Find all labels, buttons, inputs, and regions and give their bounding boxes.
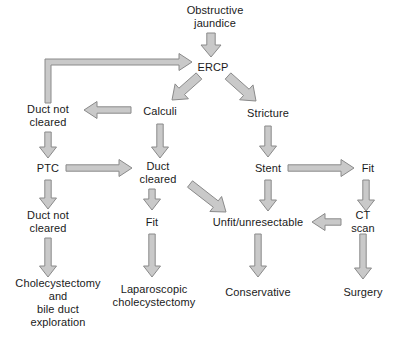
arrow-jaundice-to-ercp bbox=[201, 33, 221, 57]
flowchart-canvas: Obstructive jaundice ERCP Calculi Strict… bbox=[0, 0, 395, 341]
arrow-calculi-to-duct-not-cleared bbox=[84, 102, 131, 119]
arrow-ct-scan-to-surgery bbox=[355, 234, 372, 279]
node-fit-middle: Fit bbox=[146, 216, 159, 229]
arrow-ercp-to-calculi bbox=[172, 73, 202, 100]
arrow-duct-not-cleared-to-ptc bbox=[40, 132, 57, 158]
node-cholecystectomy: Cholecystectomy and bile duct exploratio… bbox=[15, 277, 100, 329]
node-conservative: Conservative bbox=[225, 286, 290, 299]
node-ct-scan: CT scan bbox=[347, 209, 379, 235]
arrow-ptc-to-duct-not-cleared-2 bbox=[40, 180, 57, 209]
arrow-duct-not-cleared-2-to-cholecystectomy bbox=[40, 238, 57, 277]
arrow-ptc-to-duct-cleared bbox=[66, 160, 132, 177]
node-duct-not-cleared-1: Duct not cleared bbox=[27, 103, 69, 129]
arrow-stricture-to-stent bbox=[260, 126, 277, 157]
node-laparoscopic-cholecystectomy: Laparoscopic cholecystectomy bbox=[113, 283, 196, 309]
node-ercp: ERCP bbox=[198, 61, 229, 74]
arrow-stent-to-fit-right bbox=[288, 160, 354, 177]
node-calculi: Calculi bbox=[143, 105, 177, 118]
node-stent: Stent bbox=[255, 162, 281, 175]
arrow-duct-cleared-to-unfit bbox=[188, 181, 227, 212]
arrow-ercp-to-stricture bbox=[225, 73, 256, 101]
node-duct-cleared: Duct cleared bbox=[140, 160, 177, 186]
arrow-unfit-to-conservative bbox=[250, 234, 267, 277]
node-unfit-unresectable: Unfit/unresectable bbox=[213, 216, 303, 229]
node-obstructive-jaundice: Obstructive jaundice bbox=[187, 4, 244, 30]
node-stricture: Stricture bbox=[247, 107, 289, 120]
arrow-calculi-to-duct-cleared bbox=[152, 124, 169, 158]
arrow-fit-right-to-ct-scan bbox=[358, 180, 375, 211]
arrow-ct-scan-to-unfit bbox=[312, 214, 341, 231]
arrow-duct-cleared-to-fit bbox=[144, 189, 161, 210]
arrow-duct-not-cleared-to-ercp bbox=[45, 54, 192, 104]
node-surgery: Surgery bbox=[343, 286, 382, 299]
node-ptc: PTC bbox=[37, 162, 59, 175]
node-fit-right: Fit bbox=[362, 162, 375, 175]
arrow-stent-to-unfit bbox=[260, 180, 277, 211]
arrow-fit-middle-to-laparoscopic bbox=[144, 234, 161, 277]
node-duct-not-cleared-2: Duct not cleared bbox=[27, 209, 69, 235]
